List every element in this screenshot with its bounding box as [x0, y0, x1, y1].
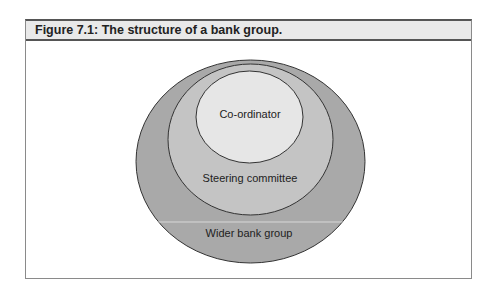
label-coordinator: Co-ordinator: [219, 108, 280, 120]
label-wider-bank-group: Wider bank group: [206, 227, 293, 239]
label-steering-committee: Steering committee: [203, 172, 298, 184]
nested-circles-diagram: [0, 0, 497, 293]
